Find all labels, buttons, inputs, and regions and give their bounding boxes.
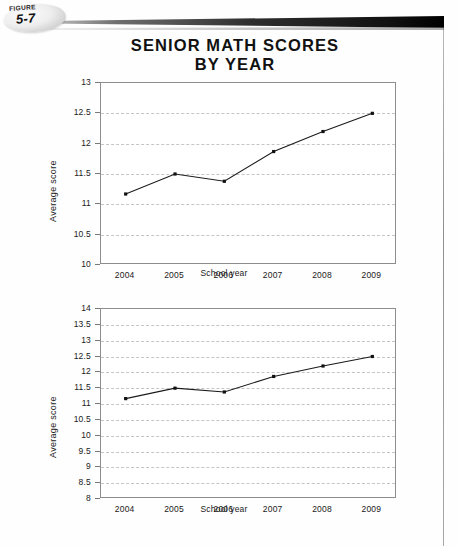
x-axis-title: School year [34,268,414,278]
data-point-marker [124,397,127,400]
data-point-marker [272,375,275,378]
y-tick-mark [95,143,100,144]
y-axis-title: Average score [48,160,58,222]
plot-area [100,82,396,264]
chart-bottom: 88.599.51010.51111.51212.51313.514200420… [34,300,414,538]
y-tick-label: 9 [34,461,91,471]
series-line [126,357,373,399]
data-point-marker [321,364,324,367]
y-tick-label: 14 [34,303,91,313]
y-tick-mark [95,340,100,341]
x-axis-title: School year [34,504,414,514]
y-tick-label: 11 [34,198,91,208]
y-tick-mark [95,451,100,452]
y-tick-mark [95,82,100,83]
header-gradient-bar [44,16,444,28]
series-layer [101,309,397,499]
data-point-marker [272,150,275,153]
y-tick-mark [95,435,100,436]
y-tick-mark [95,308,100,309]
figure-tag-number: 5-7 [16,10,36,26]
y-tick-label: 13.5 [34,319,91,329]
y-tick-label: 13 [34,77,91,87]
y-tick-mark [95,112,100,113]
series-line [126,113,373,194]
y-tick-mark [95,234,100,235]
header-bar-shadow [44,27,444,30]
y-tick-mark [95,466,100,467]
y-tick-mark [95,264,100,265]
data-point-marker [173,387,176,390]
chart-top: 1010.51111.51212.51320042005200620072008… [34,72,414,292]
y-tick-label: 12 [34,138,91,148]
data-point-marker [371,112,374,115]
y-axis-title: Average score [48,396,58,458]
y-tick-label: 11.5 [34,382,91,392]
y-tick-label: 8.5 [34,477,91,487]
y-tick-mark [95,387,100,388]
y-tick-label: 12.5 [34,107,91,117]
y-tick-mark [95,403,100,404]
series-layer [101,83,397,265]
plot-area [100,308,396,498]
y-tick-mark [95,419,100,420]
y-tick-mark [95,498,100,499]
y-tick-label: 11 [34,398,91,408]
y-tick-mark [95,324,100,325]
y-tick-label: 12.5 [34,351,91,361]
y-tick-label: 10.5 [34,229,91,239]
data-point-marker [124,192,127,195]
y-tick-label: 13 [34,335,91,345]
data-point-marker [223,180,226,183]
y-tick-mark [95,371,100,372]
data-point-marker [223,390,226,393]
data-point-marker [321,130,324,133]
y-tick-label: 8 [34,493,91,503]
y-tick-mark [95,482,100,483]
y-tick-mark [95,356,100,357]
y-tick-label: 10 [34,430,91,440]
y-tick-label: 12 [34,366,91,376]
y-tick-label: 10.5 [34,414,91,424]
y-tick-label: 9.5 [34,446,91,456]
page-edge-rule [443,22,444,546]
data-point-marker [371,355,374,358]
y-tick-mark [95,203,100,204]
data-point-marker [173,172,176,175]
page-title-line-1: SENIOR MATH SCORES [70,36,400,55]
y-tick-mark [95,173,100,174]
y-tick-label: 11.5 [34,168,91,178]
page-canvas: FIGURE 5-7 SENIOR MATH SCORES BY YEAR 10… [0,0,458,546]
page-title: SENIOR MATH SCORES BY YEAR [70,36,400,75]
